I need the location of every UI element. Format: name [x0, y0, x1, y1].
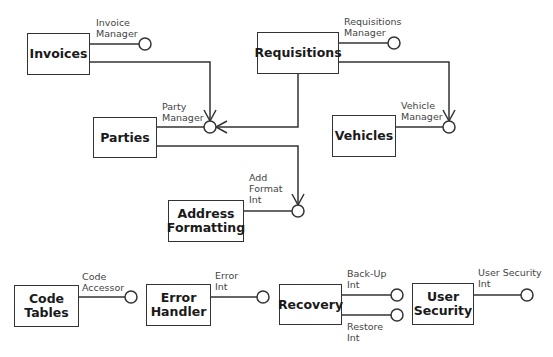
error-handler-label: Error Handler — [151, 291, 207, 319]
party-manager-label: Party Manager — [162, 101, 204, 123]
add-format-interface-icon — [292, 205, 304, 217]
requisitions-label: Requisitions — [254, 46, 341, 60]
vehicle-manager-label: Vehicle Manager — [401, 100, 443, 122]
invoice-manager-label: Invoice Manager — [96, 17, 138, 39]
code-accessor-label: Code Accessor — [82, 271, 124, 293]
vehicles-label: Vehicles — [335, 129, 393, 143]
address-formatting-label: Address Formatting — [167, 207, 245, 235]
requisitions-component[interactable]: Requisitions — [257, 32, 339, 74]
error-handler-component[interactable]: Error Handler — [146, 284, 211, 326]
restore-int-label: Restore Int — [347, 321, 383, 343]
back-up-int-interface-icon — [391, 289, 403, 301]
recovery-label: Recovery — [278, 298, 343, 312]
recovery-component[interactable]: Recovery — [279, 284, 342, 325]
error-int-interface-icon — [257, 291, 269, 303]
code-tables-label: Code Tables — [24, 292, 69, 320]
party-manager-interface-icon — [204, 121, 216, 133]
user-security-component[interactable]: User Security — [412, 283, 474, 325]
requisitions-party-dependency-line — [216, 74, 298, 127]
code-accessor-interface-icon — [125, 291, 137, 303]
user-security-label: User Security — [414, 290, 472, 318]
invoice-manager-interface-icon — [139, 38, 151, 50]
error-int-label: Error Int — [215, 270, 238, 292]
component-diagram: Invoices Requisitions Parties Vehicles A… — [0, 0, 553, 357]
vehicles-component[interactable]: Vehicles — [332, 115, 396, 157]
parties-component[interactable]: Parties — [93, 117, 157, 158]
parties-label: Parties — [100, 131, 150, 145]
address-formatting-component[interactable]: Address Formatting — [168, 200, 244, 242]
vehicle-manager-interface-icon — [443, 121, 455, 133]
back-up-int-label: Back-Up Int — [347, 268, 386, 290]
invoices-label: Invoices — [30, 47, 88, 61]
requisitions-manager-label: Requisitions Manager — [344, 16, 401, 38]
invoices-component[interactable]: Invoices — [27, 33, 90, 75]
user-security-int-interface-icon — [521, 289, 533, 301]
restore-int-interface-icon — [391, 309, 403, 321]
user-security-int-label: User Security Int — [478, 267, 542, 289]
add-format-int-label: Add Format Int — [249, 172, 282, 205]
requisitions-manager-interface-icon — [388, 37, 400, 49]
code-tables-component[interactable]: Code Tables — [14, 285, 79, 327]
